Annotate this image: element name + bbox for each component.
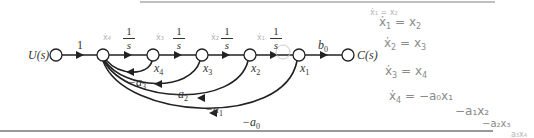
node-label-x4: x4 <box>154 62 163 77</box>
gain-input: 1 <box>77 39 83 51</box>
node-x2 <box>244 49 256 61</box>
handwritten-eq2: ẋ2 = x3 <box>384 37 426 52</box>
input-label: U(s) <box>28 49 49 61</box>
handwritten-top-scribble: ẋ₁ = x₂ <box>370 9 398 17</box>
signal-flow-graph <box>0 0 534 138</box>
node-label-x3: x3 <box>203 62 212 77</box>
feedback-gain-a3: −a3 <box>128 76 146 91</box>
handwritten-xdot1: ẋ₁ <box>257 34 265 42</box>
handwritten-xdot2: ẋ₂ <box>211 34 219 42</box>
gain-output: b0 <box>318 39 328 54</box>
gain-integrator-2: 1 s <box>173 26 185 51</box>
handwritten-eq3: ẋ3 = x4 <box>385 65 427 80</box>
node-label-x2: x2 <box>251 62 260 77</box>
handwritten-xdot4: ẋ₄ <box>103 34 111 42</box>
feedback-gain-a0: −a0 <box>242 116 260 131</box>
feedback-gain-a2: −a2 <box>170 88 188 103</box>
gain-integrator-4: 1 s <box>270 26 282 51</box>
handwritten-eq1: ẋ1 = x2 <box>379 16 421 31</box>
handwritten-eq4-line3: −a₂x₃ <box>482 119 510 129</box>
output-label: C(s) <box>357 49 378 61</box>
node-x1 <box>293 49 305 61</box>
gain-integrator-1: 1 s <box>123 26 135 51</box>
handwritten-eq4: ẋ4 = −a₀x₁ <box>389 90 453 105</box>
node-x3 <box>196 49 208 61</box>
handwritten-xdot3: ẋ₃ <box>156 34 164 42</box>
node-c <box>342 49 354 61</box>
handwritten-eq4-line2: −a₁x₂ <box>455 105 489 117</box>
node-sum <box>97 49 109 61</box>
feedback-gain-a1: −a1 <box>205 103 223 118</box>
node-x4 <box>147 49 159 61</box>
node-label-x1: x1 <box>300 62 309 77</box>
gain-integrator-3: 1 s <box>221 26 233 51</box>
node-u <box>50 49 62 61</box>
handwritten-eq4-line4: a₃x₄ <box>511 131 527 138</box>
